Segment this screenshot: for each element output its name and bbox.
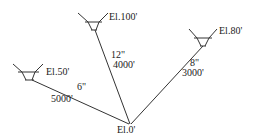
pipe-from-el100: [95, 30, 130, 124]
junction-label: El.0': [117, 124, 135, 135]
reservoir-el80-label: El.80': [219, 25, 242, 36]
pipe-el50-length: 5000': [51, 93, 73, 104]
pipe-el100-length: 4000': [113, 59, 135, 70]
reservoir-el100: [78, 13, 108, 30]
reservoir-el100-label: El.100': [109, 11, 137, 22]
pipe-el80-length: 3000': [182, 67, 204, 78]
pipe-el50-diameter: 6": [77, 81, 86, 92]
reservoir-el50-label: El.50': [46, 66, 69, 77]
three-reservoir-diagram: El.100' El.80' El.50' El.0' 12" 4000' 8"…: [0, 0, 259, 137]
reservoir-el50: [13, 64, 43, 80]
reservoir-el80: [189, 29, 217, 46]
